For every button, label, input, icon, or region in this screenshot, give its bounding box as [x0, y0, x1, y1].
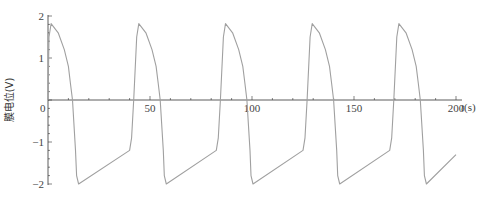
- x-tick-label: 0: [40, 102, 46, 114]
- y-tick-label: 1: [39, 52, 45, 64]
- x-tick-label: 100: [244, 102, 261, 114]
- y-axis-label: 膜电位(V): [3, 78, 15, 123]
- y-tick-label: 2: [39, 10, 45, 22]
- x-axis-label: t(s): [461, 101, 476, 114]
- membrane-potential-chart: 050100150200−2−112 t(s) 膜电位(V): [0, 0, 490, 199]
- axes: [48, 15, 462, 185]
- y-tick-label: −2: [32, 178, 44, 190]
- x-tick-label: 50: [145, 102, 157, 114]
- x-tick-label: 150: [346, 102, 363, 114]
- y-tick-label: −1: [32, 136, 44, 148]
- ticks: [48, 16, 456, 184]
